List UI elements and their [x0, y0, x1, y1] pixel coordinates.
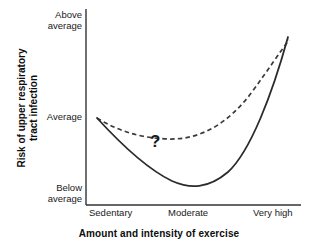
y-tick-below-line2: average [20, 193, 82, 204]
curve-dashed-uncertain [97, 40, 289, 139]
y-tick-above-line1: Above [20, 9, 82, 20]
x-axis-title: Amount and intensity of exercise [0, 228, 318, 239]
y-axis-title-line1: Risk of upper respiratory [16, 28, 28, 188]
curve-solid-jcurve [97, 37, 288, 186]
x-tick-label-sedentary: Sedentary [89, 207, 132, 218]
y-axis-title-line2: tract infection [28, 28, 40, 188]
chart-container: Above average Average Below average Sede… [0, 0, 318, 251]
x-tick-label-moderate: Moderate [168, 207, 208, 218]
y-axis-title: Risk of upper respiratory tract infectio… [16, 28, 40, 188]
x-tick-label-very-high: Very high [253, 207, 293, 218]
question-mark-annotation: ? [150, 132, 160, 152]
